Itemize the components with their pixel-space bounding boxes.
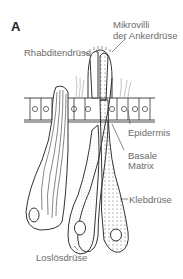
- label-mikrovilli: Mikrovilli: [113, 19, 149, 30]
- label-matrix: Matrix: [128, 160, 154, 171]
- label-losloesdruese: Loslösdrüse: [36, 252, 87, 263]
- gland-diagram: [0, 0, 183, 279]
- epidermis-layer: [24, 98, 155, 122]
- label-epidermis: Epidermis: [128, 127, 170, 138]
- rhabditen-gland: [26, 86, 68, 230]
- label-ankerdruese: der Ankerdrüse: [113, 30, 177, 41]
- label-klebdruese: Klebdrüse: [129, 194, 172, 205]
- label-rhabditendruese: Rhabditendrüse: [24, 47, 91, 58]
- losloes-gland: [68, 125, 99, 254]
- kleb-gland: [100, 100, 128, 252]
